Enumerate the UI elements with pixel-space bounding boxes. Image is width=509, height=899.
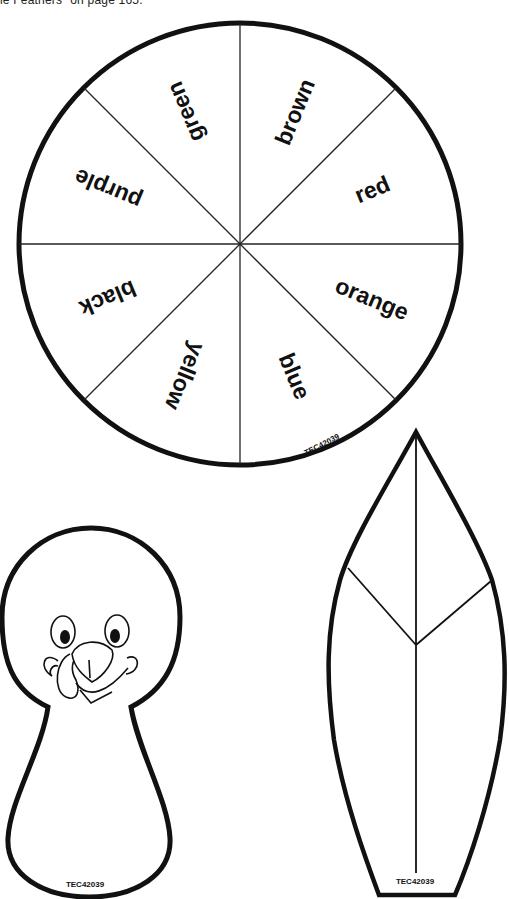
turkey-body-cutout: TEC42039 xyxy=(2,528,180,897)
color-spinner-wheel: brown red orange blue yellow black purpl… xyxy=(19,23,461,465)
feather-code-label: TEC42039 xyxy=(396,877,435,886)
feather-cutout: TEC42039 xyxy=(329,432,505,895)
cutout-templates: brown red orange blue yellow black purpl… xyxy=(0,0,509,899)
wheel-dividers xyxy=(19,23,461,465)
turkey-body-outline xyxy=(2,528,180,897)
body-code-label: TEC42039 xyxy=(66,880,105,889)
